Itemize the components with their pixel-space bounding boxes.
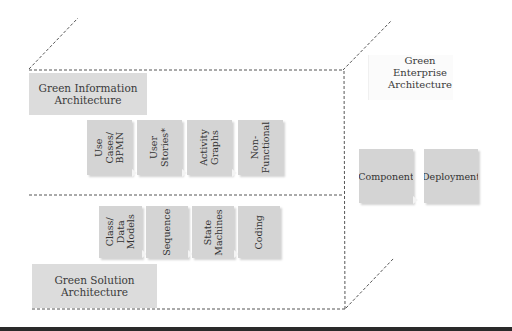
step-label: Sequence	[162, 208, 173, 255]
step-coding: Coding	[238, 206, 280, 258]
information-architecture-text: Green Information Architecture	[39, 82, 138, 106]
step-label: State Machines	[203, 209, 224, 255]
step-non-functional: Non- Functional	[238, 120, 283, 175]
step-label: Activity Graphs	[199, 129, 220, 166]
step-label: Use Cases/ BPMN	[94, 132, 126, 164]
architecture-diagram: Green Enterprise Architecture Component …	[0, 0, 512, 331]
step-state-machines: State Machines	[192, 206, 234, 258]
solution-architecture-text: Green Solution Architecture	[54, 274, 134, 298]
step-label: Deployment	[424, 171, 478, 182]
step-label: Non- Functional	[250, 122, 271, 174]
step-sequence: Sequence	[146, 206, 188, 258]
step-activity-graphs: Activity Graphs	[187, 120, 232, 175]
enterprise-architecture-label: Green Enterprise Architecture	[370, 55, 470, 91]
step-use-cases-bpmn: Use Cases/ BPMN	[87, 120, 132, 175]
information-architecture-label: Green Information Architecture	[29, 73, 147, 115]
step-label: Component	[359, 171, 413, 182]
step-class-data-models: Class/ Data Models	[99, 206, 142, 258]
arrow-chevron-icon	[413, 196, 418, 204]
step-label: Class/ Data Models	[105, 214, 137, 249]
step-deployment: Deployment	[424, 149, 478, 203]
step-label: Coding	[254, 215, 265, 249]
solution-architecture-label: Green Solution Architecture	[32, 264, 157, 308]
bottom-rule-divider	[0, 327, 512, 331]
step-user-stories: User Stories*	[137, 120, 182, 175]
step-label: User Stories*	[149, 128, 170, 167]
step-component: Component	[359, 149, 413, 203]
arrow-chevron-icon	[232, 169, 237, 177]
